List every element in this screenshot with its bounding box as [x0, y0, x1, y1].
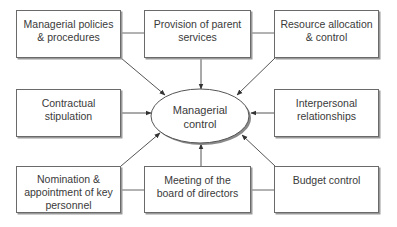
node-board-meeting: Meeting of the board of directors: [144, 166, 251, 213]
node-label: Meeting of the board of directors: [147, 174, 248, 200]
center-label: Managerial control: [152, 103, 248, 131]
node-label: Contractual stipulation: [19, 97, 118, 123]
node-interpersonal-relationships: Interpersonal relationships: [274, 89, 379, 137]
node-label: Budget control: [277, 174, 376, 187]
node-label: Resource allocation & control: [277, 18, 376, 44]
node-label: Nomination & appointment of key personne…: [19, 173, 118, 212]
node-label: Managerial policies & procedures: [19, 18, 118, 44]
node-budget-control: Budget control: [274, 166, 379, 213]
node-contractual-stipulation: Contractual stipulation: [16, 89, 121, 137]
arrow-resource-to-center: [237, 58, 275, 95]
node-label: Interpersonal relationships: [277, 97, 376, 123]
arrow-policies-to-center: [121, 58, 165, 95]
node-resource-allocation: Resource allocation & control: [274, 10, 379, 58]
node-parent-services: Provision of parent services: [144, 10, 251, 58]
node-managerial-policies: Managerial policies & procedures: [16, 10, 121, 58]
node-label: Provision of parent services: [147, 18, 248, 44]
node-nomination-appointment: Nomination & appointment of key personne…: [16, 166, 121, 213]
arrow-budget-to-center: [242, 135, 275, 166]
managerial-control-diagram: Managerial control Managerial policies &…: [0, 0, 397, 227]
arrow-nomination-to-center: [121, 133, 160, 166]
